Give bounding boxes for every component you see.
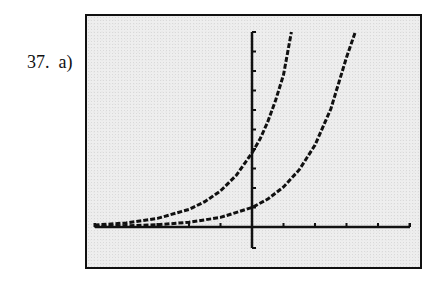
curves bbox=[95, 32, 356, 226]
exponential-curve bbox=[95, 32, 356, 226]
exponential-curve bbox=[95, 32, 292, 225]
graph-plot bbox=[0, 0, 437, 283]
axes bbox=[95, 32, 411, 248]
